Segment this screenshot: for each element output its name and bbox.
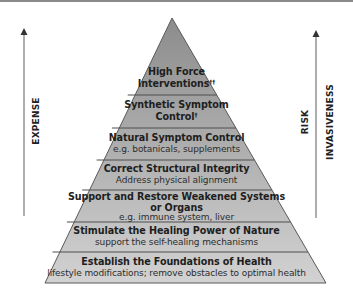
tier-title: Natural Symptom Control <box>0 133 353 143</box>
tier-subtitle: lifestyle modifications; remove obstacle… <box>0 269 353 278</box>
expense-arrowhead-icon <box>21 28 28 35</box>
tier-title-line2: Control† <box>0 112 353 122</box>
tier-correct-structural-integrity: Correct Structural Integrity Address phy… <box>0 164 353 185</box>
tier-title: Support and Restore Weakened Systems <box>0 192 353 202</box>
tier-synthetic-symptom-control: Synthetic Symptom Control† <box>0 100 353 121</box>
tier-subtitle: e.g. immune system, liver <box>0 213 353 222</box>
tier-subtitle: support the self-healing mechanisms <box>0 238 353 247</box>
tier-title: Correct Structural Integrity <box>0 164 353 174</box>
footnote-mark: † <box>195 111 198 118</box>
tier-subtitle: e.g. botanicals, supplements <box>0 145 353 154</box>
tier-natural-symptom-control: Natural Symptom Control e.g. botanicals,… <box>0 133 353 154</box>
tier-title: High Force <box>0 67 353 77</box>
tier-title-line2: or Organs <box>0 203 353 213</box>
footnote-mark: †† <box>209 78 215 85</box>
tier-title: Synthetic Symptom <box>0 100 353 110</box>
risk-arrowhead-icon <box>313 30 320 37</box>
tier-stimulate-healing-power: Stimulate the Healing Power of Nature su… <box>0 226 353 247</box>
tier-title-line2: Interventions†† <box>0 79 353 89</box>
tier-establish-foundations: Establish the Foundations of Health life… <box>0 257 353 278</box>
tier-high-force-interventions: High Force Interventions†† <box>0 67 353 88</box>
tier-title: Stimulate the Healing Power of Nature <box>0 226 353 236</box>
tier-subtitle: Address physical alignment <box>0 176 353 185</box>
tier-support-restore-systems: Support and Restore Weakened Systems or … <box>0 192 353 222</box>
tier-title: Establish the Foundations of Health <box>0 257 353 267</box>
